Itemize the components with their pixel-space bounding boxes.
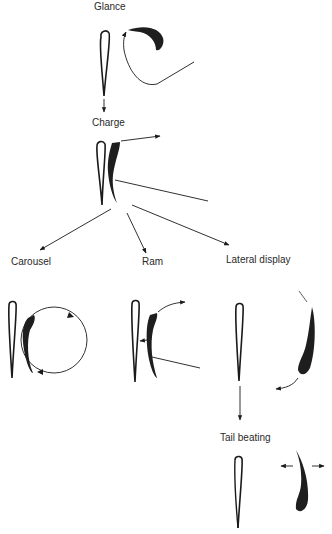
- lateral-turn-trace: [299, 291, 307, 302]
- carousel-group: [9, 301, 87, 378]
- outline-fish-charge: [97, 142, 105, 205]
- outline-fish-glance: [100, 31, 109, 96]
- dark-fish-ram: [147, 313, 158, 378]
- arrow-charge-to-ram: [127, 213, 146, 253]
- lateral-display-group: [236, 291, 315, 420]
- label-lateral-display: Lateral display: [226, 254, 290, 265]
- label-carousel: Carousel: [11, 256, 51, 267]
- charge-motion-arrow: [121, 136, 160, 141]
- ram-motion-arrow: [158, 302, 185, 312]
- dark-fish-glance: [128, 27, 163, 50]
- ram-track-line: [152, 357, 200, 368]
- outline-fish-carousel: [9, 301, 16, 378]
- charge-group: [40, 136, 229, 253]
- arrow-charge-to-lateral: [132, 205, 229, 245]
- outline-fish-lateral: [236, 303, 243, 381]
- ram-group: [132, 300, 200, 382]
- glance-group: [100, 27, 194, 112]
- diagram-canvas: [0, 0, 332, 534]
- ram-strike-arrow: [140, 340, 147, 341]
- lateral-turn-arrow: [276, 378, 298, 389]
- dark-fish-tail: [296, 450, 308, 511]
- charge-track-line: [115, 180, 208, 201]
- outline-fish-ram: [132, 300, 139, 382]
- dark-fish-charge: [108, 142, 120, 203]
- label-glance: Glance: [94, 1, 126, 12]
- label-tail-beating: Tail beating: [220, 432, 271, 443]
- label-charge: Charge: [92, 117, 125, 128]
- tail-beating-group: [235, 450, 324, 528]
- label-ram: Ram: [142, 256, 163, 267]
- outline-fish-tail-left: [235, 460, 238, 528]
- dark-fish-carousel: [23, 315, 35, 373]
- dark-fish-lateral: [298, 307, 315, 374]
- arrow-charge-to-carousel: [40, 209, 111, 250]
